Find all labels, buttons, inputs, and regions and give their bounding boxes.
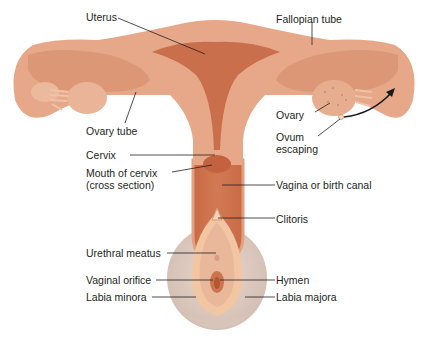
label-ovum-escaping-1: Ovum	[276, 131, 304, 143]
label-mouth-of-cervix-1: Mouth of cervix	[86, 167, 157, 179]
label-ovary: Ovary	[276, 109, 304, 121]
label-vagina: Vagina or birth canal	[276, 179, 372, 191]
label-hymen: Hymen	[276, 274, 309, 286]
label-labia-minora: Labia minora	[86, 291, 147, 303]
right-ovary	[312, 80, 356, 116]
label-labia-majora: Labia majora	[276, 291, 337, 303]
left-ovary	[67, 82, 107, 114]
ovum	[339, 115, 344, 120]
reproductive-diagram	[0, 0, 426, 348]
label-ovum-escaping-2: escaping	[276, 143, 318, 155]
cervix-shape	[203, 155, 231, 173]
left-fimbria-bulb	[31, 82, 59, 102]
label-uterus: Uterus	[86, 11, 117, 23]
label-ovary-tube: Ovary tube	[86, 125, 137, 137]
label-vaginal-orifice: Vaginal orifice	[86, 274, 151, 286]
label-cervix: Cervix	[86, 149, 116, 161]
label-mouth-of-cervix-2: (cross section)	[86, 179, 154, 191]
hymen-inner	[214, 277, 220, 289]
label-urethral-meatus: Urethral meatus	[86, 247, 161, 259]
label-fallopian-tube: Fallopian tube	[276, 13, 342, 25]
urethral-meatus-shape	[215, 255, 220, 261]
label-clitoris: Clitoris	[276, 213, 308, 225]
